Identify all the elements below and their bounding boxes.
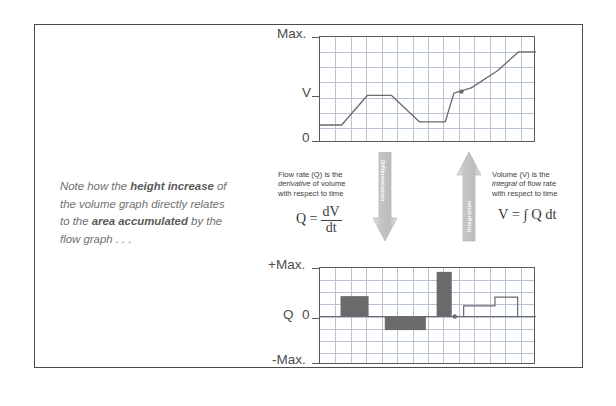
diff-desc-line-1: Flow rate (Q) is the: [278, 170, 370, 179]
explanatory-note: Note how the height increase of the volu…: [60, 178, 250, 248]
note-line-3-pre: to the: [60, 215, 92, 227]
note-line-4: flow graph . . .: [60, 231, 250, 249]
int-desc-line-3: with respect to time: [492, 189, 584, 198]
integral-equation: V = ∫ Q dt: [498, 206, 557, 223]
int-desc-line-2: integral of flow rate: [492, 179, 584, 188]
note-line-1-pre: Note how the: [60, 180, 130, 192]
flow-bar-series: [320, 268, 536, 365]
integration-description: Volume (V) is the integral of flow rate …: [492, 170, 584, 198]
diff-desc-line-3: with respect to time: [278, 189, 370, 198]
derivative-equation: Q =dVdt: [296, 205, 342, 235]
int-desc-line-1: Volume (V) is the: [492, 170, 584, 179]
flow-y-axis-minus-max-label: -Max.: [272, 352, 306, 367]
volume-y-axis-zero-label: 0: [302, 130, 310, 145]
note-emphasis-height-increase: height increase: [130, 180, 214, 192]
volume-plot-area: [319, 36, 535, 142]
derivative-denominator: dt: [321, 221, 342, 236]
note-line-3: to the area accumulated by the: [60, 213, 250, 231]
differentiation-arrow-label: Differentiation: [380, 160, 386, 201]
int-desc-emphasis: integral: [492, 179, 517, 188]
derivative-equation-lhs: Q =: [296, 211, 318, 226]
diff-desc-line-2-rest: of volume: [311, 179, 346, 188]
differentiation-description: Flow rate (Q) is the derivative of volum…: [278, 170, 370, 198]
flow-y-axis-q-label: Q: [283, 307, 294, 322]
note-line-1: Note how the height increase of: [60, 178, 250, 196]
flow-y-axis-plus-max-label: +Max.: [268, 257, 305, 272]
volume-y-axis-v-label: V: [302, 85, 311, 100]
note-line-2: the volume graph directly relates: [60, 196, 250, 214]
note-line-3-post: by the: [188, 215, 222, 227]
derivative-fraction: dVdt: [321, 205, 342, 235]
flow-plot-area: [319, 267, 535, 364]
note-line-1-post: of: [214, 180, 227, 192]
integration-arrow-label: Integration: [466, 200, 472, 232]
volume-line-series: [320, 37, 536, 143]
note-emphasis-area-accumulated: area accumulated: [92, 215, 188, 227]
int-desc-line-2-rest: of flow rate: [517, 179, 556, 188]
diagram-canvas: Note how the height increase of the volu…: [0, 0, 616, 406]
diff-desc-emphasis: derivative: [278, 179, 311, 188]
flow-y-axis-zero-label: 0: [302, 307, 310, 322]
diff-desc-line-2: derivative of volume: [278, 179, 370, 188]
derivative-numerator: dV: [321, 205, 342, 221]
volume-y-axis-max-label: Max.: [277, 26, 306, 41]
